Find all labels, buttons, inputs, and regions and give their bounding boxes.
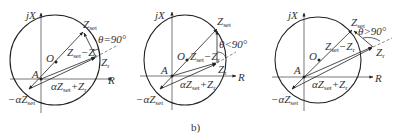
theta-label: θ>90° — [358, 25, 387, 37]
point-o-label: O — [46, 52, 54, 64]
point-a-label: A — [31, 68, 39, 80]
point-a — [171, 75, 174, 78]
zset-minus-zr-label: Zset−Zr — [325, 40, 355, 54]
panel-2: jX R A O Zset Zr Zset−Zr αZset+Zr −αZset… — [136, 9, 248, 134]
impedance-circle-diagram: jX R A O Zset Zr Zset−Zr αZset+Zr −αZset… — [0, 0, 411, 140]
azset-plus-zr-label: αZset+Zr — [180, 78, 216, 92]
point-a-label: A — [160, 64, 168, 76]
axis-x-label: R — [107, 74, 115, 86]
zr-label: Zr — [376, 46, 385, 60]
theta-label: θ<90° — [219, 38, 248, 50]
point-o-label: O — [309, 50, 317, 62]
point-a — [303, 76, 306, 79]
point-o — [318, 59, 321, 62]
axis-x-label: R — [237, 71, 245, 83]
panel-1: jX R A O Zset Zr Zset−Zr αZset+Zr −αZset… — [8, 9, 127, 113]
zset-minus-zr-label: Zset−Zr — [190, 50, 220, 64]
zset-minus-zr-label: Zset−Zr — [67, 46, 97, 60]
point-o — [55, 61, 58, 64]
theta-label: θ=90° — [98, 33, 127, 45]
figure-caption: b) — [191, 121, 201, 134]
point-a-label: A — [293, 64, 301, 76]
point-o-label: O — [177, 50, 185, 62]
neg-azset-label: −αZset — [8, 93, 35, 107]
azset-plus-zr-label: αZset+Zr — [312, 78, 348, 92]
point-a — [40, 78, 43, 81]
axis-y-label: jX — [24, 9, 37, 21]
axis-y-label: jX — [153, 9, 166, 21]
zr-label: Zr — [101, 56, 110, 70]
azset-plus-zr-label: αZset+Zr — [51, 80, 87, 94]
axis-x-label: R — [374, 72, 382, 84]
zset-label: Zset — [83, 18, 97, 32]
axis-y-label: jX — [286, 9, 299, 21]
zset-label: Zset — [217, 15, 231, 29]
panel-3: jX R A O Zset Zr Zset−Zr αZset+Zr −αZset… — [271, 9, 392, 111]
point-o — [186, 59, 189, 62]
